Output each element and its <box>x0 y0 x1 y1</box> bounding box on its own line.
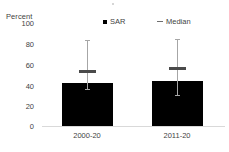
error-bar-upper-cap-2000-20 <box>85 40 90 41</box>
error-bar-lower-cap-2000-20 <box>85 89 90 90</box>
y-tick-label-40: 40 <box>8 83 34 91</box>
median-marker-2011-20 <box>169 67 186 70</box>
error-bar-upper-cap-2011-20 <box>175 39 180 40</box>
median-marker-2000-20 <box>79 70 96 73</box>
error-bar-lower-cap-2011-20 <box>175 95 180 96</box>
x-tick-label-0: 2000-20 <box>42 131 132 140</box>
error-bar-line-2000-20 <box>87 41 88 90</box>
y-tick-label-80: 80 <box>8 41 34 49</box>
plot-area <box>42 22 222 126</box>
top-artifact-speck <box>112 3 114 5</box>
y-tick-label-0: 0 <box>8 123 34 131</box>
bar-2000-20 <box>62 83 113 126</box>
x-axis-baseline <box>42 126 225 127</box>
chart-container: Percent 100 80 60 40 20 0 SAR Median 200… <box>0 0 229 152</box>
y-tick-label-100: 100 <box>8 20 34 28</box>
x-tick-label-1: 2011-20 <box>132 131 222 140</box>
y-tick-label-60: 60 <box>8 62 34 70</box>
y-tick-label-20: 20 <box>8 103 34 111</box>
